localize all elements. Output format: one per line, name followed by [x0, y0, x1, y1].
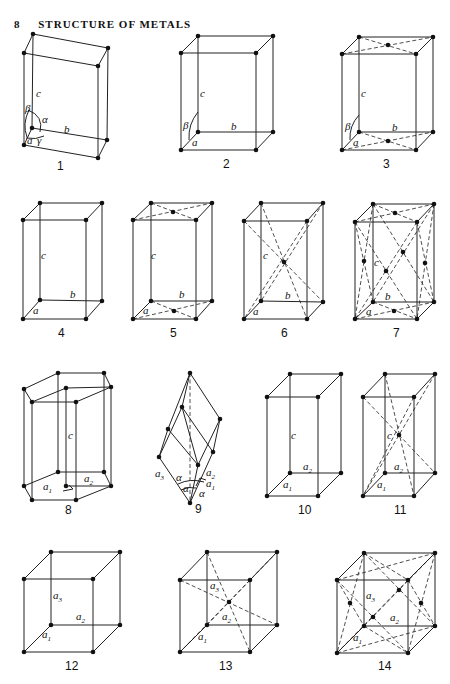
label-a3: a3: [210, 579, 220, 594]
figure-number: 13: [219, 659, 233, 673]
label-c: c: [36, 87, 41, 99]
label-a3: a3: [155, 467, 165, 482]
figure-11-body-centered-tetragonal: c a1 a2 11: [361, 372, 438, 517]
figure-12-simple-cubic: a3 a2 a1 12: [22, 550, 123, 673]
label-a2: a2: [84, 472, 94, 487]
figure-2-simple-monoclinic: c β a b 2: [179, 34, 276, 171]
figure-number: 6: [281, 326, 288, 340]
label-a2: a2: [76, 610, 86, 625]
figure-1-triclinic: c β α b a γ 1: [22, 32, 111, 173]
label-a: a: [353, 136, 359, 148]
figure-14-face-centered-cubic: a3 a2 a1 14: [335, 551, 438, 673]
label-a1: a1: [377, 478, 386, 493]
label-a: a: [143, 304, 149, 316]
label-a2: a2: [390, 611, 400, 626]
label-c: c: [387, 429, 392, 441]
label-a1: a1: [283, 478, 292, 493]
figure-number: 14: [378, 659, 392, 673]
label-b: b: [70, 288, 76, 300]
label-c: c: [200, 87, 205, 99]
figure-13-body-centered-cubic: a3 a2 a1 13: [178, 550, 280, 673]
label-a1: a1: [42, 628, 51, 643]
label-c: c: [291, 429, 296, 441]
label-b: b: [285, 289, 291, 301]
label-c: c: [41, 249, 46, 261]
label-gamma: γ: [37, 134, 42, 146]
label-a: a: [33, 304, 39, 316]
label-a2: a2: [222, 610, 232, 625]
figure-3-base-centered-monoclinic: c β a b 3: [340, 35, 436, 171]
figure-10-simple-tetragonal: c a1 a2 10: [265, 372, 344, 517]
label-a: a: [27, 134, 33, 146]
figure-number: 1: [57, 159, 64, 173]
label-c: c: [263, 249, 268, 261]
label-b: b: [385, 290, 391, 302]
label-alpha-1: α: [176, 471, 182, 483]
figure-8-hexagonal: c a1 a2 8: [22, 371, 114, 517]
figure-4-simple-orthorhombic: c a b 4: [21, 201, 105, 340]
figure-7-face-centered-orthorhombic: c a b 7: [353, 202, 437, 340]
figure-number: 4: [58, 326, 65, 340]
figure-6-body-centered-orthorhombic: c a b 6: [242, 201, 326, 340]
figure-number: 7: [393, 326, 400, 340]
label-alpha: α: [42, 113, 48, 125]
figure-number: 12: [65, 659, 79, 673]
label-c: c: [151, 249, 156, 261]
label-b: b: [179, 288, 185, 300]
label-b: b: [64, 123, 70, 135]
label-alpha-3: α: [199, 487, 205, 499]
figure-number: 10: [298, 503, 312, 517]
figure-number: 3: [383, 157, 390, 171]
label-beta: β: [24, 102, 31, 114]
figure-number: 11: [394, 503, 407, 517]
label-a3: a3: [53, 589, 63, 604]
figure-number: 8: [65, 503, 72, 517]
figure-9-rhombohedral: a3 a2 a1 α α α 9: [155, 371, 222, 516]
label-c: c: [361, 87, 366, 99]
label-a: a: [253, 305, 259, 317]
label-a3: a3: [366, 589, 376, 604]
label-a1: a1: [353, 631, 362, 646]
label-a: a: [366, 305, 372, 317]
label-b: b: [392, 121, 398, 133]
label-beta: β: [182, 119, 189, 131]
label-a: a: [192, 136, 198, 148]
label-alpha-2: α: [183, 482, 189, 494]
figure-number: 5: [170, 326, 177, 340]
figure-5-base-centered-orthorhombic: c a b 5: [131, 201, 215, 340]
label-c: c: [68, 429, 73, 441]
label-beta: β: [344, 120, 351, 132]
figure-number: 2: [223, 157, 230, 171]
bravais-lattices-diagram: c β α b a γ 1 c β a b 2: [0, 0, 450, 684]
figure-number: 9: [195, 502, 202, 516]
label-c: c: [374, 256, 379, 268]
label-a1: a1: [43, 480, 52, 495]
label-a1: a1: [198, 630, 207, 645]
label-b: b: [231, 120, 237, 132]
